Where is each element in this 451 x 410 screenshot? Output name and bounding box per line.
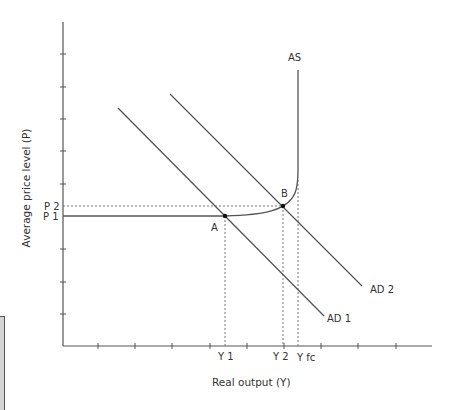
- y-axis-title: Average price level (P): [20, 129, 32, 248]
- point-b-marker: [281, 204, 285, 208]
- ad1-curve: [118, 108, 324, 316]
- y1-label: Y 1: [217, 351, 234, 362]
- yfc-label: Y fc: [296, 352, 315, 363]
- ad2-label: AD 2: [370, 284, 394, 295]
- guide-lines: [63, 180, 298, 346]
- point-a-label: A: [211, 222, 218, 233]
- side-panel-edge: [0, 316, 5, 410]
- ad1-label: AD 1: [327, 313, 351, 324]
- y2-label: Y 2: [272, 351, 289, 362]
- as-label: AS: [288, 52, 301, 63]
- p1-label: P 1: [43, 211, 59, 222]
- x-axis-title: Real output (Y): [212, 376, 291, 388]
- point-a-marker: [223, 214, 227, 218]
- as-curve: [63, 70, 298, 216]
- point-b-label: B: [281, 188, 288, 199]
